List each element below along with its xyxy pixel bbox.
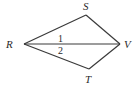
angle-label-2: 2 <box>58 45 63 56</box>
segment-tv <box>89 44 120 69</box>
segment-rs <box>24 15 86 44</box>
segment-sv <box>86 15 120 44</box>
vertex-label-t: T <box>85 73 92 85</box>
geometry-diagram: R S V T 1 2 <box>0 0 140 87</box>
vertex-label-s: S <box>83 0 89 12</box>
diagram-canvas: R S V T 1 2 <box>0 0 140 87</box>
vertex-label-r: R <box>5 38 13 50</box>
segment-rt <box>24 44 89 69</box>
angle-label-1: 1 <box>58 33 63 44</box>
vertex-label-v: V <box>124 38 132 50</box>
